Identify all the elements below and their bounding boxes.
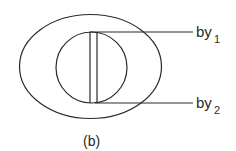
label-by-2: by 2: [196, 94, 220, 116]
figure-caption: (b): [83, 133, 100, 149]
inner-circle: [56, 32, 127, 103]
diagram-canvas: by 1 by 2 (b): [0, 0, 236, 151]
label-by-1: by 1: [196, 23, 220, 45]
label-by-2-text: by: [196, 94, 212, 111]
label-by-1-subscript: 1: [214, 33, 220, 45]
label-by-2-subscript: 2: [214, 104, 220, 116]
label-by-1-text: by: [196, 23, 212, 40]
